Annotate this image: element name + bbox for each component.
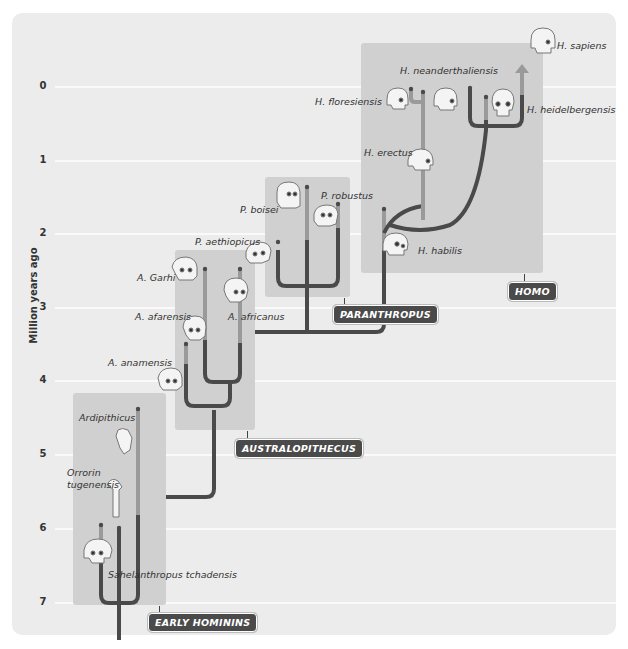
skull-icon-africanus — [224, 278, 248, 302]
label-a-afarensis: A. afarensis — [135, 311, 191, 322]
skull-icon-boisei — [277, 182, 300, 208]
skull-icon-neanderthal — [434, 88, 457, 110]
group-badge-homo: HOMO — [508, 282, 557, 301]
group-badge-paranthropus: PARANTHROPUS — [333, 305, 438, 324]
label-orrorin-2: tugenensis — [67, 479, 119, 490]
label-a-anamensis: A. anamensis — [108, 357, 172, 368]
phylogeny-tree — [0, 0, 628, 649]
label-sahelanthropus: Sahelanthropus tchadensis — [108, 569, 237, 580]
skull-icon-sahelanthropus — [84, 539, 112, 563]
group-badge-early-hominins: EARLY HOMININS — [148, 613, 257, 632]
label-p-boisei: P. boisei — [240, 204, 278, 215]
label-h-floresiensis: H. floresiensis — [315, 96, 382, 107]
label-ardipithicus: Ardipithicus — [79, 412, 135, 423]
skull-icon-anamensis — [158, 368, 182, 390]
label-h-habilis: H. habilis — [418, 245, 462, 256]
label-p-aethiopicus: P. aethiopicus — [195, 236, 260, 247]
label-h-heidelbergensis: H. heidelbergensis — [527, 104, 615, 115]
label-p-robustus: P. robustus — [321, 190, 373, 201]
skull-icon-robustus — [314, 205, 338, 226]
connector-australopithecus — [247, 431, 248, 438]
label-a-garhi: A. Garhi — [137, 272, 175, 283]
group-badge-australopithecus: AUSTRALOPITHECUS — [235, 439, 363, 458]
label-h-sapiens: H. sapiens — [557, 40, 606, 51]
label-a-africanus: A. africanus — [228, 311, 284, 322]
skull-icon-habilis — [383, 233, 408, 255]
skull-icon-heidelbergensis — [492, 89, 514, 116]
skull-icon-sapiens — [531, 28, 555, 53]
jaw-icon-ardipithicus — [116, 429, 132, 455]
connector-early — [159, 606, 160, 612]
skull-icon-garhi — [172, 257, 197, 280]
connector-paranthropus — [344, 298, 345, 304]
label-orrorin-1: Orrorin — [67, 467, 101, 478]
label-h-neanderthalensis: H. neanderthaliensis — [400, 65, 498, 76]
label-h-erectus: H. erectus — [364, 147, 413, 158]
hominin-evolution-diagram: 0 1 2 3 4 5 6 7 Million years ago — [0, 0, 628, 649]
connector-homo — [524, 274, 525, 281]
skull-icon-floresiensis — [387, 88, 408, 109]
